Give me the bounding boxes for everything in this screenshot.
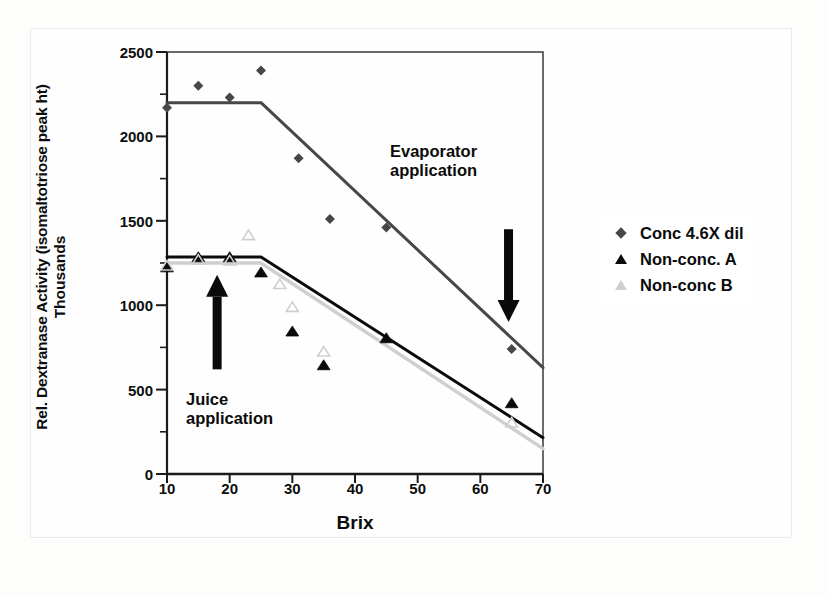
marker-shape bbox=[615, 280, 627, 290]
data-point-conc-4-6x-dil bbox=[193, 81, 203, 91]
data-point-conc-4-6x-dil bbox=[294, 153, 304, 163]
legend-diamond-icon bbox=[610, 229, 632, 237]
data-point-non-conc-b bbox=[286, 302, 298, 312]
data-point-non-conc-a bbox=[255, 267, 268, 277]
figure-root: Rel. Dextranase Activity (isomaltotriose… bbox=[0, 0, 828, 595]
trend-line-conc-4-6x-dil bbox=[167, 103, 543, 368]
legend-triangle-filled-icon bbox=[610, 254, 632, 264]
data-point-conc-4-6x-dil bbox=[162, 103, 172, 113]
data-point-conc-4-6x-dil bbox=[256, 66, 266, 76]
legend-item-label: Non-conc B bbox=[640, 276, 733, 295]
data-point-non-conc-a bbox=[286, 326, 299, 336]
legend-item: Non-conc. A bbox=[610, 246, 744, 272]
marker-shape bbox=[615, 227, 626, 238]
data-point-conc-4-6x-dil bbox=[507, 344, 517, 354]
legend-item: Conc 4.6X dil bbox=[610, 220, 744, 246]
data-point-non-conc-b bbox=[318, 347, 330, 357]
legend-item-label: Non-conc. A bbox=[640, 250, 737, 269]
legend-item-label: Conc 4.6X dil bbox=[640, 224, 744, 243]
data-point-non-conc-b bbox=[274, 279, 286, 289]
data-point-non-conc-b bbox=[242, 230, 254, 240]
data-point-conc-4-6x-dil bbox=[325, 214, 335, 224]
data-point-conc-4-6x-dil bbox=[225, 93, 235, 103]
arrow-juice-head bbox=[206, 275, 228, 297]
arrow-evaporator-head bbox=[498, 300, 520, 322]
legend-item: Non-conc B bbox=[610, 272, 744, 298]
marker-shape bbox=[615, 254, 627, 264]
data-point-non-conc-a bbox=[505, 398, 518, 408]
data-point-non-conc-a bbox=[317, 360, 330, 370]
legend-triangle-light-icon bbox=[610, 280, 632, 290]
chart-legend: Conc 4.6X dilNon-conc. ANon-conc B bbox=[600, 212, 754, 307]
